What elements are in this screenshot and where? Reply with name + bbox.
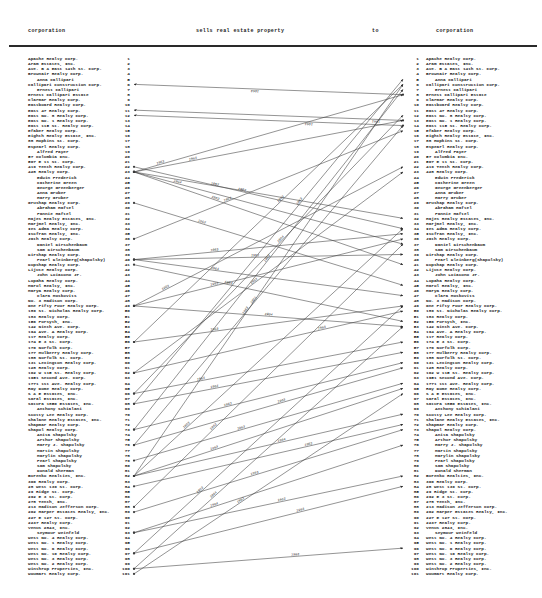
transfer-origin-dot bbox=[133, 171, 135, 173]
transfer-line bbox=[134, 260, 403, 296]
transfer-origin-dot bbox=[133, 506, 135, 508]
transfer-origin-dot bbox=[133, 573, 135, 575]
transfer-line bbox=[134, 95, 403, 172]
transfer-origin-dot bbox=[133, 485, 135, 487]
transfer-year-label: 1963 bbox=[236, 496, 245, 504]
transfer-line bbox=[134, 414, 403, 476]
transfer-origin-dot bbox=[133, 166, 135, 168]
transfer-line bbox=[134, 110, 403, 120]
transfer-year-label: 1963 bbox=[210, 247, 218, 252]
transfer-line bbox=[134, 172, 403, 265]
transfer-origin-dot bbox=[133, 258, 135, 260]
transfer-origin-dot bbox=[133, 372, 135, 374]
transfer-line bbox=[134, 131, 403, 239]
transfer-line bbox=[134, 476, 403, 533]
transfer-year-label: 1963 bbox=[251, 253, 259, 257]
transfer-year-label: 1964 bbox=[264, 312, 272, 317]
transfer-origin-dot bbox=[133, 459, 135, 461]
transfer-year-label: 1963 bbox=[291, 552, 299, 557]
transfer-origin-dot bbox=[133, 444, 135, 446]
transfer-line bbox=[134, 84, 403, 476]
transfer-origin-dot bbox=[133, 511, 135, 513]
transfer-origin-dot bbox=[133, 532, 135, 534]
transfer-line bbox=[134, 548, 403, 569]
transfer-line bbox=[134, 84, 403, 342]
transfer-year-label: 1963 bbox=[277, 497, 286, 503]
transfer-line bbox=[134, 394, 403, 574]
transfer-origin-dot bbox=[133, 552, 135, 554]
transfer-line bbox=[134, 327, 403, 569]
transfer-origin-dot bbox=[133, 568, 135, 570]
transfer-year-label: 1963 bbox=[211, 181, 220, 186]
transfer-year-label: 1963 bbox=[241, 306, 249, 315]
transfer-year-label: 1963 bbox=[188, 156, 197, 161]
transfer-origin-dot bbox=[133, 392, 135, 394]
transfer-line bbox=[134, 79, 403, 404]
transfer-lines-layer: 1963196119611963196319631964196319631963… bbox=[0, 0, 542, 598]
transfer-origin-dot bbox=[133, 264, 135, 266]
transfer-origin-dot bbox=[133, 202, 135, 204]
transfer-line bbox=[134, 244, 403, 507]
transfer-origin-dot bbox=[133, 429, 135, 431]
transfer-line bbox=[134, 388, 403, 476]
transfer-year-label: 1963 bbox=[304, 441, 313, 447]
transfer-line bbox=[134, 311, 403, 373]
transfer-line bbox=[134, 229, 403, 476]
transfer-line bbox=[134, 383, 403, 460]
transfer-year-label: 1963 bbox=[251, 89, 259, 93]
transfer-year-label: 1964 bbox=[210, 384, 219, 389]
transfer-year-label: 1963 bbox=[317, 325, 326, 331]
transfer-origin-dot bbox=[133, 475, 135, 477]
transfer-year-label: 1963 bbox=[210, 281, 219, 287]
transfer-line bbox=[134, 115, 403, 125]
transfer-line bbox=[134, 306, 403, 327]
transfer-origin-dot bbox=[133, 403, 135, 405]
transfer-year-label: 1964 bbox=[277, 437, 286, 443]
transfer-origin-dot bbox=[133, 305, 135, 307]
transfer-origin-dot bbox=[133, 238, 135, 240]
transfer-year-label: 1963 bbox=[238, 187, 247, 193]
transfer-origin-dot bbox=[133, 341, 135, 343]
transfer-line bbox=[134, 430, 403, 512]
transfer-line bbox=[134, 84, 403, 94]
transfer-year-label: 1963 bbox=[296, 507, 305, 513]
real-estate-transfer-chart: corporation sells real estate property t… bbox=[0, 0, 542, 598]
transfer-year-label: 1963 bbox=[223, 401, 232, 407]
transfer-line bbox=[134, 167, 403, 229]
transfer-line bbox=[134, 342, 403, 394]
